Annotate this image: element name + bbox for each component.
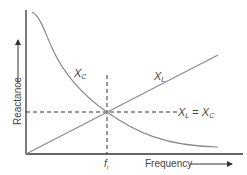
xl-equals-xc-label: XL = XC xyxy=(177,106,215,119)
resonant-frequency-label: fr xyxy=(104,158,110,170)
xc-label: XC xyxy=(73,67,87,80)
x-axis-label: Frequency xyxy=(145,158,192,169)
reactance-frequency-diagram: Reactance Frequency XC XL XL = XC fr xyxy=(0,0,247,175)
xl-curve xyxy=(26,55,218,154)
y-axis-label: Reactance xyxy=(12,77,23,125)
xl-label: XL xyxy=(153,70,165,83)
xc-curve xyxy=(32,12,218,147)
